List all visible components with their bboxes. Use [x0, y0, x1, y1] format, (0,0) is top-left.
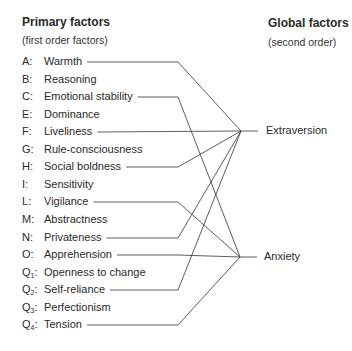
connector-anxiety: [138, 97, 240, 257]
connector-anxiety: [93, 202, 240, 257]
factor-name: Social boldness: [44, 160, 121, 172]
connector-extraversion: [110, 131, 241, 290]
factor-connections: [0, 0, 352, 351]
factor-name: Vigilance: [44, 195, 88, 207]
factor-name: Warmth: [44, 55, 82, 67]
connector-anxiety: [117, 255, 240, 257]
factor-name: Tension: [44, 318, 82, 330]
connector-extraversion: [126, 131, 241, 167]
factor-name: Privateness: [44, 231, 101, 243]
factor-name: Emotional stability: [44, 90, 133, 102]
factor-name: Apprehension: [44, 248, 112, 260]
factor-name: Self-reliance: [44, 283, 105, 295]
factor-name: Liveliness: [44, 125, 92, 137]
connector-extraversion: [106, 131, 241, 238]
connector-extraversion: [97, 131, 241, 132]
connector-anxiety: [87, 257, 240, 325]
